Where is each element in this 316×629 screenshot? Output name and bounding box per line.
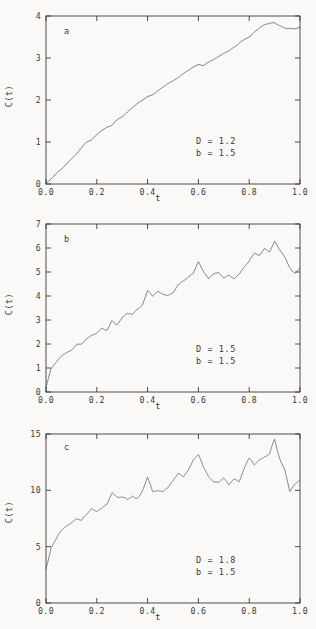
svg-text:0: 0 — [36, 598, 41, 608]
panel-letter-b: b — [64, 234, 69, 244]
y-axis-label-c: C(t) — [4, 501, 14, 523]
annotation-D-c: D = 1.8 — [196, 555, 236, 566]
svg-text:3: 3 — [36, 53, 41, 63]
svg-text:0: 0 — [36, 387, 41, 397]
svg-text:10: 10 — [30, 485, 41, 495]
chart-panel-c: 0.00.20.40.60.81.0051015 C(t) t c D = 1.… — [0, 416, 316, 629]
plot-svg-a: 0.00.20.40.60.81.001234 — [0, 0, 316, 210]
x-axis-label-b: t — [0, 401, 316, 411]
figure-panel-stack: 0.00.20.40.60.81.001234 C(t) t a D = 1.2… — [0, 0, 316, 629]
annotation-b-a: b = 1.5 — [196, 148, 236, 159]
y-axis-label-b: C(t) — [4, 293, 14, 315]
panel-letter-c: c — [64, 442, 69, 452]
svg-text:7: 7 — [36, 219, 41, 229]
chart-panel-b: 0.00.20.40.60.81.001234567 C(t) t b D = … — [0, 208, 316, 418]
svg-text:5: 5 — [36, 542, 41, 552]
annotation-D-b: D = 1.5 — [196, 344, 236, 355]
plot-area-a: 0.00.20.40.60.81.001234 C(t) t a D = 1.2… — [0, 0, 316, 210]
annotation-b-c: b = 1.5 — [196, 567, 236, 578]
svg-text:15: 15 — [30, 429, 41, 439]
plot-svg-b: 0.00.20.40.60.81.001234567 — [0, 208, 316, 418]
plot-area-b: 0.00.20.40.60.81.001234567 C(t) t b D = … — [0, 208, 316, 418]
y-axis-label-a: C(t) — [4, 85, 14, 107]
plot-area-c: 0.00.20.40.60.81.0051015 C(t) t c D = 1.… — [0, 416, 316, 629]
svg-text:1: 1 — [36, 363, 41, 373]
svg-text:2: 2 — [36, 339, 41, 349]
svg-text:2: 2 — [36, 95, 41, 105]
svg-text:0: 0 — [36, 179, 41, 189]
annotation-D-a: D = 1.2 — [196, 136, 236, 147]
svg-text:1: 1 — [36, 137, 41, 147]
svg-text:4: 4 — [36, 11, 41, 21]
chart-panel-a: 0.00.20.40.60.81.001234 C(t) t a D = 1.2… — [0, 0, 316, 210]
annotation-b-b: b = 1.5 — [196, 356, 236, 367]
plot-svg-c: 0.00.20.40.60.81.0051015 — [0, 416, 316, 629]
svg-text:5: 5 — [36, 267, 41, 277]
panel-letter-a: a — [64, 26, 69, 36]
svg-text:3: 3 — [36, 315, 41, 325]
x-axis-label-c: t — [0, 612, 316, 622]
svg-text:4: 4 — [36, 291, 41, 301]
svg-text:6: 6 — [36, 243, 41, 253]
x-axis-label-a: t — [0, 193, 316, 203]
